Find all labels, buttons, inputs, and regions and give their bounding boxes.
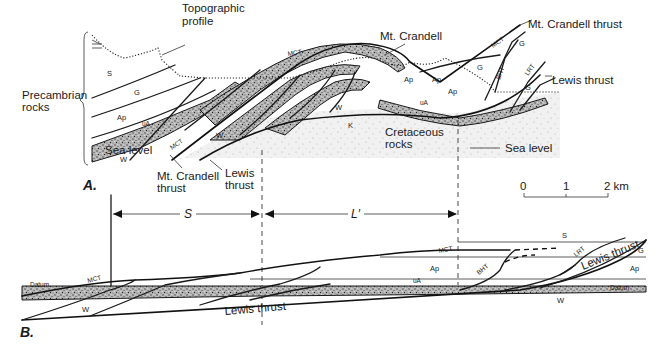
panel-b-label: B.: [20, 324, 34, 340]
unit-g-label-top: G: [519, 39, 525, 48]
unit-mct-label-b-right: MCT: [438, 245, 453, 254]
precambrian-label-1: Precambrian: [22, 89, 87, 101]
cretaceous-label-1: Cretaceous: [385, 126, 444, 138]
lewis-thrust-label-b: Lewis thrust: [224, 300, 287, 317]
scale-tick-0: 0: [520, 180, 526, 192]
unit-w-label-center: W: [335, 103, 343, 112]
unit-w-label-left: W: [120, 155, 128, 164]
mt-crandell-thrust-bottom-label-2: thrust: [157, 182, 187, 194]
unit-ua-label: uA: [142, 120, 151, 127]
scale-tick-1: 1: [563, 180, 569, 192]
s-arrow-right-head: [251, 210, 260, 218]
mt-crandell-thrust-label: Mt. Crandell thrust: [528, 18, 623, 30]
topographic-label-1: Topographic: [182, 2, 245, 14]
l-prime-arrow-right-head: [448, 210, 457, 218]
lrt-trace-b-1: [505, 238, 625, 290]
unit-ap-label-b-left: Ap: [430, 264, 439, 273]
bht-trace-b: [460, 250, 515, 290]
topographic-profile-leader: [162, 45, 185, 55]
precambrian-label-2: rocks: [22, 101, 50, 113]
mt-crandell-thrust-bottom-label-1: Mt. Crandell: [157, 170, 219, 182]
unit-g-label-b: G: [638, 246, 644, 255]
lewis-thrust-label-right: Lewis thrust: [552, 74, 614, 86]
panel-b: Datum Datum Lewis thrust Lewis thrust MC…: [20, 231, 646, 340]
unit-g-label-lrt: G: [525, 83, 531, 92]
lewis-thrust-bottom-label-2: thrust: [225, 179, 255, 191]
unit-g-label: G: [134, 88, 140, 97]
unit-bht-label: BHT: [494, 66, 505, 81]
unit-ap-label-center: Ap: [404, 75, 413, 84]
cretaceous-label-2: rocks: [385, 138, 413, 150]
l-prime-measure-label: L′: [351, 207, 361, 221]
scale-tick-2: 2 km: [604, 180, 629, 192]
unit-ap-label: Ap: [117, 113, 126, 122]
unit-ua-label-right: uA: [420, 99, 429, 106]
lewis-thrust-bottom-label-1: Lewis: [225, 167, 255, 179]
unit-ap-label-right: Ap: [448, 87, 457, 96]
scale-bar: 0 1 2 km: [520, 180, 629, 197]
topographic-label-2: profile: [182, 15, 213, 27]
datum-label-right: Datum: [610, 284, 629, 291]
s-arrow-left-head: [113, 210, 122, 218]
unit-s-label: S: [107, 69, 112, 78]
left-edge-ticks: [92, 40, 102, 48]
mt-crandell-leader: [385, 44, 405, 55]
unit-k-label: K: [348, 121, 353, 130]
unit-bht-label-b: BHT: [475, 262, 489, 276]
lrt-trace-b-2: [560, 265, 575, 275]
datum-label-left: Datum: [30, 281, 49, 288]
unit-mct-label-left: MCT: [169, 137, 185, 151]
unit-w-label-b-right: W: [557, 296, 565, 305]
unit-s-label-b: S: [562, 231, 567, 240]
unit-w-label-b-left: W: [82, 305, 90, 314]
unit-lrt-label-b: LRT: [572, 245, 586, 258]
lewis-thrust-base-b: [22, 240, 646, 320]
s-measure-label: S: [184, 207, 192, 221]
sea-level-label-right: Sea level: [505, 142, 552, 154]
lewis-thrust-bottom-leader: [210, 160, 222, 170]
mct-trace-b-dashed: [515, 248, 560, 250]
measurement-arrows: S L′: [113, 207, 457, 221]
unit-ap-label-center2: Ap: [432, 75, 441, 84]
sea-level-label-left: Sea level: [105, 144, 152, 156]
unit-g-label-right: G: [477, 63, 483, 72]
unit-ap-label-b-right: Ap: [630, 264, 639, 273]
unit-ua-label-b: uA: [413, 277, 422, 284]
unit-w-label-mid: W: [216, 131, 224, 140]
l-prime-arrow-left-head: [265, 210, 274, 218]
thrust-cross-section-figure: Topographic profile Precambrian rocks Mt…: [0, 0, 668, 346]
mt-crandell-label: Mt. Crandell: [380, 30, 442, 42]
panel-a: Topographic profile Precambrian rocks Mt…: [22, 2, 623, 325]
panel-a-label: A.: [82, 177, 97, 193]
